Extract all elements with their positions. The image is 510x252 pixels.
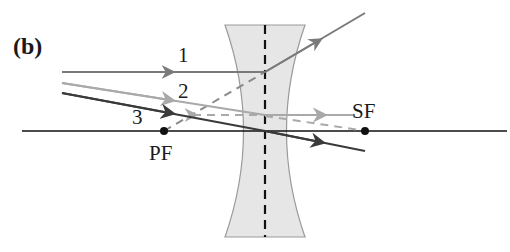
ray-3-arrow xyxy=(62,93,170,113)
ray-2-label: 2 xyxy=(178,81,189,102)
ray-1-label: 1 xyxy=(178,45,189,66)
secondary-focus-label: SF xyxy=(352,101,375,122)
secondary-focus-dot xyxy=(361,127,369,135)
primary-focus-label: PF xyxy=(149,143,172,164)
panel-label: (b) xyxy=(13,34,42,58)
ray-3-label: 3 xyxy=(132,107,143,128)
diagram-svg xyxy=(0,0,510,252)
ray-diagram: (b) 1 2 3 PF SF xyxy=(0,0,510,252)
primary-focus-dot xyxy=(160,127,168,135)
ray-2-arrow xyxy=(62,83,170,100)
